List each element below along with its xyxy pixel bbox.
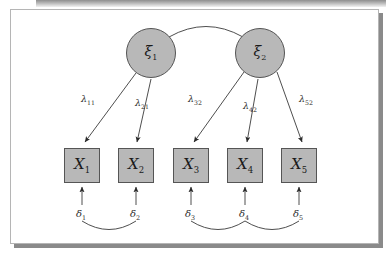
observed-node-x3[interactable]: X3 [173,148,209,183]
figure-frame: ξ1 ξ2 X1 X2 X3 X4 X5 λ11 λ21 [10,9,379,244]
latent-node-xi2[interactable]: ξ2 [235,28,285,78]
top-band [36,0,386,7]
observed-node-x1[interactable]: X1 [64,148,100,183]
error-label-delta1: δ1 [76,209,86,221]
observed-label-x4: X4 [237,157,253,175]
covariance-path-delta1-delta2 [82,221,136,230]
loading-label-lambda32: λ32 [188,94,202,106]
latent-label-xi2: ξ2 [254,44,267,62]
loading-path-lambda11 [85,73,136,142]
observed-label-x1: X1 [74,157,90,175]
covariance-path-xi1-xi2 [169,27,243,38]
diagram-canvas: ξ1 ξ2 X1 X2 X3 X4 X5 λ11 λ21 [11,10,378,243]
error-label-delta3: δ3 [185,209,195,221]
observed-node-x2[interactable]: X2 [118,148,154,183]
loading-path-lambda32 [194,72,244,142]
error-label-delta5: δ5 [293,209,303,221]
observed-label-x3: X3 [183,157,199,175]
covariance-path-delta3-delta4 [191,221,245,230]
error-label-delta2: δ2 [130,209,140,221]
latent-label-xi1: ξ1 [145,44,158,62]
observed-node-x4[interactable]: X4 [227,148,263,183]
loading-label-lambda21: λ21 [135,98,149,110]
observed-label-x2: X2 [128,157,144,175]
observed-node-x5[interactable]: X5 [281,148,317,183]
error-label-delta4: δ4 [239,209,249,221]
loading-label-lambda42: λ42 [243,101,257,113]
observed-label-x5: X5 [291,157,307,175]
loading-path-lambda52 [277,72,302,142]
latent-node-xi1[interactable]: ξ1 [126,28,176,78]
loading-label-lambda11: λ11 [81,94,95,106]
covariance-path-delta4-delta5 [245,221,299,230]
path-layer [11,10,380,245]
loading-label-lambda52: λ52 [299,94,313,106]
figure-page: ξ1 ξ2 X1 X2 X3 X4 X5 λ11 λ21 [0,0,386,258]
loading-path-lambda21 [137,79,151,142]
